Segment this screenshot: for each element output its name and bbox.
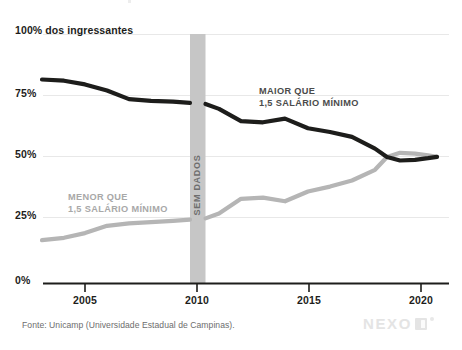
- y-axis-label-75: 75%: [15, 87, 36, 99]
- y-axis-label-25: 25%: [15, 209, 36, 221]
- nexo-wordmark: NEXO: [363, 316, 412, 331]
- series-label-maior-que-line1: MAIOR QUE: [259, 86, 359, 98]
- x-axis-label-2015: 2015: [297, 294, 321, 306]
- series-label-menor-que-line1: MENOR QUE: [68, 192, 168, 204]
- x-axis-label-2005: 2005: [73, 294, 97, 306]
- nexo-dot-icon: [430, 317, 434, 321]
- x-axis-ticks: [85, 284, 421, 292]
- y-axis-label-100: 100% dos ingressantes: [15, 24, 133, 36]
- y-axis-label-0: 0%: [15, 274, 30, 286]
- no-data-band-label: SEM DADOS: [192, 142, 202, 228]
- series-label-maior-que-line2: 1,5 SALÁRIO MÍNIMO: [259, 98, 359, 110]
- chart-container: 100% dos ingressantes 75% 50% 25% 0% 200…: [0, 0, 462, 350]
- x-axis-label-2010: 2010: [185, 294, 209, 306]
- nexo-logo: NEXO: [363, 316, 434, 331]
- nexo-mark-icon: [415, 318, 427, 330]
- series-label-menor-que: MENOR QUE 1,5 SALÁRIO MÍNIMO: [68, 192, 168, 215]
- x-axis: [0, 0, 462, 350]
- series-label-menor-que-line2: 1,5 SALÁRIO MÍNIMO: [68, 204, 168, 216]
- source-note: Fonte: Unicamp (Universidade Estadual de…: [22, 320, 235, 330]
- x-axis-label-2020: 2020: [409, 294, 433, 306]
- y-axis-label-50: 50%: [15, 148, 36, 160]
- series-label-maior-que: MAIOR QUE 1,5 SALÁRIO MÍNIMO: [259, 86, 359, 109]
